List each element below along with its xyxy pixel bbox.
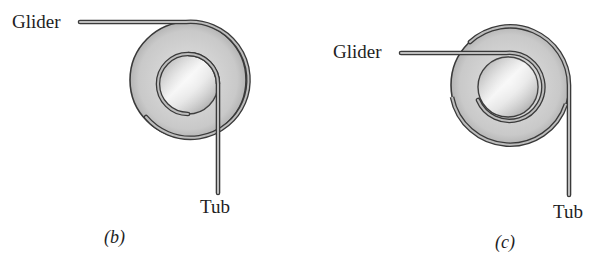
caption-c: (c) bbox=[495, 232, 515, 253]
panel-b: Glider Tub (b) bbox=[12, 11, 249, 248]
caption-b: (b) bbox=[104, 227, 125, 248]
glider-label-b: Glider bbox=[12, 11, 61, 32]
panel-c: Glider Tub (c) bbox=[333, 26, 583, 253]
tub-label-c: Tub bbox=[553, 201, 583, 222]
tub-label-b: Tub bbox=[200, 196, 230, 217]
glider-label-c: Glider bbox=[333, 41, 382, 62]
hub-highlight-c bbox=[478, 57, 538, 117]
pulley-diagram: Glider Tub (b) Glider Tub (c) bbox=[0, 0, 595, 257]
